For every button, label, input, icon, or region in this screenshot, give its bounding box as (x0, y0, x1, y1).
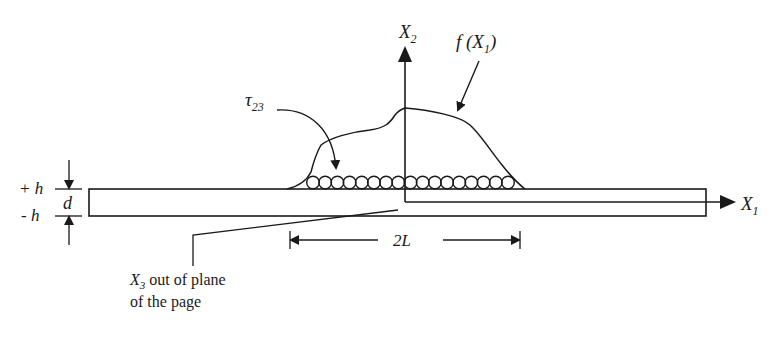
fiber-circle (356, 176, 369, 189)
fiber-circle (416, 176, 429, 189)
fiber-circle (380, 176, 393, 189)
shear-pointer-arrow (277, 110, 336, 168)
x1-axis-label: X1 (740, 193, 759, 218)
load-pointer-arrow (458, 61, 479, 110)
span-label: 2L (393, 231, 411, 250)
fiber-circle (477, 176, 490, 189)
load-function-label: f (X1) (456, 31, 496, 56)
x3-note-line1: X3 out of plane (129, 271, 226, 291)
fiber-circle (441, 176, 454, 189)
fiber-circle (368, 176, 381, 189)
fiber-circle (392, 176, 405, 189)
thickness-label: d (63, 193, 73, 213)
fiber-circles (307, 176, 515, 189)
plus-h-label: + h (19, 179, 43, 198)
fiber-circle (331, 176, 344, 189)
x3-note-line2: of the page (130, 293, 201, 311)
fiber-circle (453, 176, 466, 189)
shear-stress-label: τ23 (245, 89, 264, 114)
fiber-circle (490, 176, 503, 189)
fiber-circle (319, 176, 332, 189)
fiber-circle (307, 176, 320, 189)
fiber-circle (502, 176, 515, 189)
minus-h-label: - h (21, 206, 39, 225)
fiber-circle (343, 176, 356, 189)
fiber-circle (429, 176, 442, 189)
fiber-circle (465, 176, 478, 189)
x3-leader-line (193, 210, 398, 266)
fiber-circle (404, 176, 417, 189)
x2-axis-label: X2 (398, 21, 417, 46)
plate-diagram: X2 f (X1) τ23 + h - h d X1 2L X3 out of … (0, 0, 783, 344)
